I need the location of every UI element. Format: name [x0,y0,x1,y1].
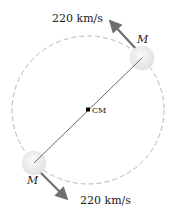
velocity-label-lower: 220 km/s [80,194,131,207]
center-of-mass-marker [86,108,90,112]
center-of-mass-label: CM [92,106,106,115]
mass-label-upper: M [136,33,149,46]
velocity-label-upper: 220 km/s [52,12,103,25]
velocity-arrow-upper [111,22,137,50]
binary-star-diagram: CM 220 km/s M M 220 km/s [0,0,172,217]
mass-label-lower: M [26,174,39,187]
